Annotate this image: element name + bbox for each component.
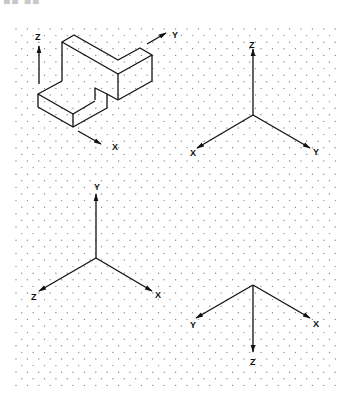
- grid-dot: [67, 101, 68, 102]
- grid-dot: [78, 325, 79, 326]
- grid-dot: [209, 28, 210, 29]
- grid-dot: [15, 319, 16, 320]
- grid-dot: [249, 299, 250, 300]
- grid-dot: [89, 207, 90, 208]
- grid-dot: [192, 180, 193, 181]
- grid-dot: [198, 108, 199, 109]
- grid-dot: [317, 75, 318, 76]
- grid-dot: [289, 279, 290, 280]
- grid-dot: [209, 42, 210, 43]
- grid-dot: [89, 378, 90, 379]
- grid-dot: [300, 279, 301, 280]
- grid-dot: [335, 81, 336, 82]
- grid-dot: [266, 121, 267, 122]
- grid-dot: [158, 35, 159, 36]
- grid-dot: [107, 292, 108, 293]
- right-axis-label: X: [313, 319, 319, 329]
- grid-dot: [146, 273, 147, 274]
- grid-dot: [21, 101, 22, 102]
- grid-dot: [232, 134, 233, 135]
- grid-dot: [300, 213, 301, 214]
- grid-dot: [255, 147, 256, 148]
- grid-dot: [129, 345, 130, 346]
- grid-dot: [27, 200, 28, 201]
- grid-dot: [89, 365, 90, 366]
- grid-dot: [260, 259, 261, 260]
- grid-dot: [95, 42, 96, 43]
- grid-dot: [21, 299, 22, 300]
- grid-dot: [118, 42, 119, 43]
- grid-dot: [32, 378, 33, 379]
- grid-dot: [158, 259, 159, 260]
- grid-dot: [283, 365, 284, 366]
- grid-dot: [198, 68, 199, 69]
- grid-dot: [158, 180, 159, 181]
- grid-dot: [55, 35, 56, 36]
- grid-dot: [135, 299, 136, 300]
- grid-dot: [289, 332, 290, 333]
- grid-dot: [15, 134, 16, 135]
- grid-dot: [295, 312, 296, 313]
- grid-dot: [101, 352, 102, 353]
- grid-dot: [306, 207, 307, 208]
- grid-dot: [266, 174, 267, 175]
- grid-dot: [295, 233, 296, 234]
- grid-dot: [135, 127, 136, 128]
- grid-dot: [300, 187, 301, 188]
- grid-dot: [32, 101, 33, 102]
- grid-dot: [158, 207, 159, 208]
- grid-dot: [249, 180, 250, 181]
- grid-dot: [232, 81, 233, 82]
- grid-dot: [175, 200, 176, 201]
- grid-dot: [15, 240, 16, 241]
- grid-dot: [175, 81, 176, 82]
- grid-dot: [300, 319, 301, 320]
- grid-dot: [255, 42, 256, 43]
- grid-dot: [164, 174, 165, 175]
- grid-dot: [89, 101, 90, 102]
- grid-dot: [72, 240, 73, 241]
- grid-dot: [141, 372, 142, 373]
- grid-dot: [335, 55, 336, 56]
- grid-dot: [15, 42, 16, 43]
- grid-dot: [118, 226, 119, 227]
- grid-dot: [27, 121, 28, 122]
- grid-dot: [283, 233, 284, 234]
- grid-dot: [124, 75, 125, 76]
- grid-dot: [255, 306, 256, 307]
- grid-dot: [32, 48, 33, 49]
- grid-dot: [226, 233, 227, 234]
- grid-dot: [186, 213, 187, 214]
- grid-dot: [141, 306, 142, 307]
- grid-dot: [278, 266, 279, 267]
- grid-dot: [278, 319, 279, 320]
- grid-dot: [255, 226, 256, 227]
- grid-dot: [295, 339, 296, 340]
- grid-dot: [181, 325, 182, 326]
- grid-dot: [260, 312, 261, 313]
- grid-dot: [232, 94, 233, 95]
- grid-dot: [38, 332, 39, 333]
- grid-dot: [164, 108, 165, 109]
- grid-dot: [289, 42, 290, 43]
- grid-dot: [146, 312, 147, 313]
- grid-dot: [255, 240, 256, 241]
- grid-dot: [101, 378, 102, 379]
- grid-dot: [232, 332, 233, 333]
- grid-dot: [95, 174, 96, 175]
- grid-dot: [192, 365, 193, 366]
- grid-dot: [300, 200, 301, 201]
- grid-dot: [260, 141, 261, 142]
- grid-dot: [198, 28, 199, 29]
- grid-dot: [118, 345, 119, 346]
- grid-dot: [181, 299, 182, 300]
- grid-dot: [175, 42, 176, 43]
- grid-dot: [84, 187, 85, 188]
- grid-dot: [329, 88, 330, 89]
- grid-dot: [21, 233, 22, 234]
- grid-dot: [101, 61, 102, 62]
- grid-dot: [78, 259, 79, 260]
- grid-dot: [283, 154, 284, 155]
- grid-dot: [175, 372, 176, 373]
- grid-dot: [112, 35, 113, 36]
